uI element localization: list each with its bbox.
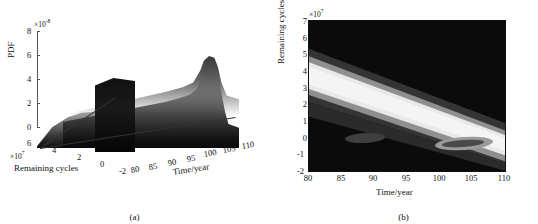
panel-a-y-tick-2: 2 [77, 152, 81, 162]
panel-b-x-tick-95: 95 [396, 173, 416, 183]
panel-a-y-tick-neg2: -2 [119, 166, 126, 176]
panel-b-x-axis-title: Time/year [376, 187, 413, 197]
panel-b-caption: (b) [269, 212, 538, 222]
panel-a-x-tick-80: 80 [130, 164, 140, 175]
panel-b-y-tick-0: 0 [293, 133, 307, 143]
panel-b-y-tick-3: 3 [293, 83, 307, 93]
panel-a-z-tick-2: 2 [27, 99, 31, 108]
panel-b-plot-area [308, 20, 506, 172]
panel-b-x-tick-110: 110 [494, 173, 514, 183]
panel-b-y-tick-7: 7 [293, 16, 307, 26]
panel-a-y-tick-4: 4 [52, 145, 56, 155]
panel-b-y-multiplier: ×107 [309, 8, 323, 19]
panel-a-y-tick-0: 0 [100, 159, 104, 169]
panel-b-x-tick-80: 80 [298, 173, 318, 183]
panel-a-z-axis-title: PDF [6, 41, 16, 58]
panel-a-surface-mesh [37, 20, 255, 160]
panel-a-y-multiplier: ×107 [10, 150, 24, 161]
panel-a-z-tick-0: 0 [27, 123, 31, 132]
panel-b-y-tick-5: 5 [293, 49, 307, 59]
panel-b-contour-plot: ×107 7 6 5 4 3 2 1 0 [269, 0, 538, 224]
panel-a-x-tick-100: 100 [203, 147, 217, 159]
panel-b-y-tick-1: 1 [293, 116, 307, 126]
panel-b-y-tick-6: 6 [293, 33, 307, 43]
panel-a-surface-scene [37, 20, 255, 160]
panel-b-small-blob [345, 132, 385, 144]
panel-a-surface-trough [95, 78, 135, 152]
panel-b-x-tick-100: 100 [429, 173, 449, 183]
panel-b-y-tick-2: 2 [293, 99, 307, 109]
panel-b-y-tick-neg1: -1 [290, 149, 304, 159]
panel-b-y-axis-title: Remaining cycles [276, 0, 286, 64]
figure-container: ×10-8 8 6 4 2 0 PDF ×107 [0, 0, 538, 224]
panel-b-y-tick-4: 4 [293, 66, 307, 76]
panel-b-x-tick-85: 85 [331, 173, 351, 183]
panel-a-surface-plot: ×10-8 8 6 4 2 0 PDF ×107 [0, 0, 269, 224]
panel-a-x-tick-85: 85 [148, 161, 158, 172]
panel-b-x-tick-90: 90 [363, 173, 383, 183]
panel-a-x-tick-95: 95 [186, 153, 196, 164]
panel-a-surface-top-shading [63, 56, 239, 116]
panel-a-caption: (a) [0, 212, 269, 222]
panel-a-y-axis-title: Remaining cycles [14, 163, 78, 173]
panel-a-z-tick-4: 4 [27, 75, 31, 84]
panel-a-z-tick-8: 8 [27, 27, 31, 36]
panel-a-y-tick-6: 6 [27, 138, 31, 148]
panel-b-x-tick-105: 105 [461, 173, 481, 183]
panel-a-x-tick-105: 105 [222, 143, 236, 155]
panel-a-x-axis-title: Time/year [172, 161, 210, 177]
panel-a-x-tick-110: 110 [241, 139, 255, 151]
panel-a-z-tick-6: 6 [27, 51, 31, 60]
